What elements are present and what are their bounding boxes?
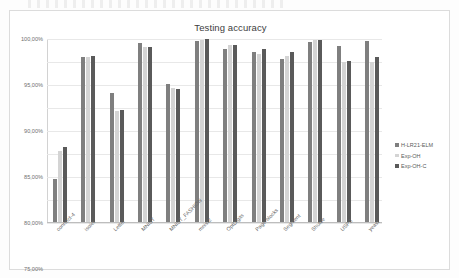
bar <box>91 56 95 222</box>
plot-area: 100,00%95,00%90,00%85,00%80,00%75,00%70,… <box>47 39 382 223</box>
bar <box>290 52 294 222</box>
bar-group <box>308 39 322 222</box>
legend-swatch-icon <box>395 164 399 168</box>
bar-group <box>81 39 95 222</box>
bar-group <box>223 39 237 222</box>
bar <box>148 47 152 222</box>
x-label-slot: isolet <box>81 224 96 276</box>
bar <box>347 61 351 222</box>
bar <box>318 40 322 222</box>
bar <box>53 179 57 222</box>
bar-group <box>138 39 152 222</box>
x-label-slot: connect-4 <box>53 224 68 276</box>
bar-group <box>280 39 294 222</box>
legend-label: Exp-OH-C <box>401 163 426 169</box>
x-label-slot: mnist2 <box>195 224 210 276</box>
x-label-slot: MNIST_FASHION <box>166 224 181 276</box>
bar <box>120 110 124 222</box>
bar <box>375 57 379 222</box>
x-axis-labels: connect-4isoletLetterMNISTMNIST_FASHIONm… <box>48 224 383 276</box>
y-axis-tick-label: 80,00% <box>24 220 43 226</box>
bar <box>115 111 119 222</box>
x-label-slot: yeast <box>365 224 380 276</box>
bar <box>252 52 256 222</box>
bar <box>337 46 341 222</box>
bar <box>342 62 346 222</box>
bar <box>308 42 312 222</box>
bar <box>257 54 261 222</box>
bar <box>195 41 199 222</box>
legend-swatch-icon <box>395 154 399 158</box>
y-axis-tick-label: 90,00% <box>24 128 43 134</box>
x-label-slot: USPS <box>337 224 352 276</box>
bar <box>313 40 317 222</box>
bar <box>81 57 85 222</box>
x-label-slot: MNIST <box>138 224 153 276</box>
page-background: Testing accuracy 100,00%95,00%90,00%85,0… <box>0 0 459 278</box>
legend-item[interactable]: Exp-OH-C <box>395 163 433 169</box>
bar <box>280 59 284 222</box>
bar <box>171 88 175 222</box>
bar <box>228 45 232 222</box>
x-label-slot: Shuttle <box>308 224 323 276</box>
legend-swatch-icon <box>395 143 399 147</box>
bar-group <box>110 39 124 222</box>
legend-item[interactable]: H-LR21-ELM <box>395 142 433 148</box>
y-axis-tick-label: 95,00% <box>24 82 43 88</box>
x-label-slot: Letter <box>110 224 125 276</box>
bar <box>138 43 142 222</box>
bar <box>166 84 170 222</box>
bar <box>285 56 289 222</box>
bar <box>223 49 227 222</box>
y-axis-tick-label: 85,00% <box>24 174 43 180</box>
bar <box>370 62 374 222</box>
bar <box>205 39 209 222</box>
bar <box>63 147 67 222</box>
bar-group <box>166 39 180 222</box>
x-label-slot: OptDigits <box>223 224 238 276</box>
bar-group <box>195 39 209 222</box>
bar-groups <box>48 39 382 222</box>
x-label-slot: Segment <box>280 224 295 276</box>
bar <box>110 93 114 222</box>
bar-group <box>53 39 67 222</box>
bar-group <box>252 39 266 222</box>
chart-title: Testing accuracy <box>10 22 451 33</box>
x-label-slot: Page-blocks <box>252 224 267 276</box>
scan-artifact <box>28 0 288 8</box>
y-axis-tick-label: 100,00% <box>21 36 43 42</box>
bar <box>233 45 237 223</box>
chart-container: Testing accuracy 100,00%95,00%90,00%85,0… <box>9 10 450 270</box>
bar <box>365 41 369 222</box>
bar <box>200 40 204 222</box>
bar <box>86 57 90 222</box>
legend-label: Exp-OH <box>401 153 421 159</box>
bar <box>143 47 147 222</box>
bar <box>262 49 266 222</box>
legend-item[interactable]: Exp-OH <box>395 153 433 159</box>
bar-group <box>365 39 379 222</box>
legend-label: H-LR21-ELM <box>401 142 433 148</box>
y-axis-tick-label: 75,00% <box>24 266 43 272</box>
bar-group <box>337 39 351 222</box>
bar <box>176 89 180 222</box>
chart-legend: H-LR21-ELMExp-OHExp-OH-C <box>395 142 433 169</box>
bar <box>58 151 62 222</box>
